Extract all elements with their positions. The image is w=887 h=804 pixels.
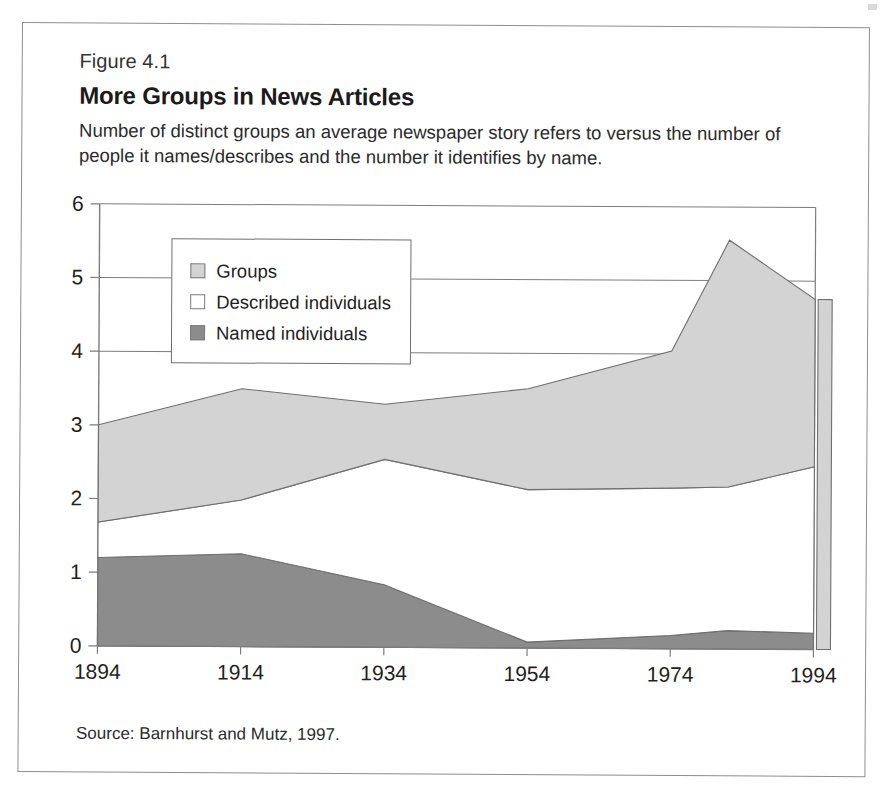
xtick-label: 1894 [74,660,121,683]
figure-source-note: Source: Barnhurst and Mutz, 1997. [76,724,340,745]
ytick-label: 0 [70,634,82,657]
legend-swatch-described-individuals [190,294,205,309]
chart-legend: Groups Described individuals Named indiv… [171,238,412,364]
ytick-label: 3 [71,413,83,436]
figure-container: Figure 4.1 More Groups in News Articles … [17,22,870,777]
legend-swatch-groups [190,263,205,278]
legend-swatch-named-individuals [190,325,205,340]
legend-label-groups: Groups [216,260,277,282]
xtick-label: 1934 [360,661,407,684]
legend-item-groups: Groups [190,255,410,287]
legend-item-named-individuals: Named individuals [190,317,410,349]
ytick-label: 5 [72,265,84,288]
legend-item-described-individuals: Described individuals [190,286,410,318]
ytick-label: 4 [71,339,83,362]
figure-subtitle: Number of distinct groups an average new… [79,118,799,172]
figure-number-label: Figure 4.1 [79,50,170,73]
legend-label-described-individuals: Described individuals [216,291,391,314]
xtick-label: 1994 [790,663,837,686]
xtick-label: 1914 [217,660,264,683]
chart-plot-area: 0123456189419141934195419741994 Groups D… [49,176,842,690]
xtick-label: 1954 [503,662,550,685]
ytick-label: 2 [70,486,82,509]
scan-artifact-speck [868,4,877,10]
gridline-y [100,204,816,208]
figure-title: More Groups in News Articles [79,82,414,112]
stacked-area-chart: 0123456189419141934195419741994 [49,176,842,690]
xtick-label: 1974 [647,663,694,686]
ytick-label: 6 [72,192,84,215]
ytick-label: 1 [70,560,82,583]
area-terminal-strip [816,300,832,650]
legend-label-named-individuals: Named individuals [216,322,367,345]
